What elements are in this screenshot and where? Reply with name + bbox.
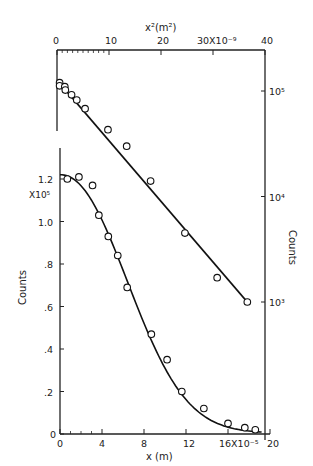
bottom-x-tick-label: 0: [57, 438, 63, 449]
top-x-tick-label: 30X10⁻⁹: [197, 35, 237, 46]
top-x-tick-label: 20: [157, 35, 169, 46]
data-point: [73, 97, 80, 104]
data-point: [225, 420, 232, 427]
bottom-x-tick-label: 16X10⁻⁵: [219, 438, 259, 449]
lower-fit-curve: [60, 175, 262, 432]
data-point: [114, 252, 121, 259]
data-point: [164, 356, 171, 363]
data-point: [105, 233, 112, 240]
left-y-tick-label: 1.0: [38, 217, 53, 228]
left-y-tick-label: .6: [44, 302, 53, 313]
data-point: [179, 388, 186, 395]
top-x-label: x²(m²): [145, 22, 177, 33]
data-point: [148, 331, 155, 338]
left-y-label: Counts: [17, 270, 28, 305]
data-point: [182, 230, 189, 237]
data-point: [62, 87, 69, 94]
bottom-x-tick-label: 8: [141, 438, 147, 449]
data-point: [123, 143, 130, 150]
data-point: [68, 92, 75, 99]
data-point: [242, 424, 249, 431]
bottom-x-ticks: 0481216X10⁻⁵20: [57, 429, 279, 449]
left-y-tick-label: 1.2: [38, 174, 53, 185]
left-y-tick-label: .4: [44, 344, 53, 355]
left-y-tick-label: .2: [44, 387, 53, 398]
lower-chart: 0481216X10⁻⁵20 0.2.4.6.81.01.2 X10⁵ Coun…: [17, 148, 279, 462]
upper-chart: 0102030X10⁻⁹40 10⁵10⁴10³ x²(m²) Counts: [53, 22, 298, 440]
right-y-tick-label: 10⁵: [269, 86, 285, 97]
right-y-label: Counts: [287, 230, 298, 265]
data-point: [82, 105, 89, 112]
data-point: [147, 178, 154, 185]
data-point: [105, 126, 112, 133]
right-y-tick-label: 10⁴: [269, 192, 285, 203]
data-point: [96, 212, 103, 219]
top-x-tick-label: 0: [53, 35, 59, 46]
data-point: [89, 182, 96, 189]
top-x-tick-label: 40: [261, 35, 273, 46]
lower-data-points: [64, 174, 259, 433]
right-y-tick-label: 10³: [269, 297, 285, 308]
left-y-tick-label: 0: [50, 429, 56, 440]
data-point: [252, 426, 259, 433]
figure: 0102030X10⁻⁹40 10⁵10⁴10³ x²(m²) Counts 0…: [0, 0, 313, 466]
data-point: [214, 274, 221, 281]
top-x-tick-label: 10: [105, 35, 117, 46]
data-point: [76, 174, 83, 181]
left-y-tick-label: .8: [44, 259, 53, 270]
bottom-x-tick-label: 12: [183, 438, 195, 449]
bottom-x-tick-label: 20: [267, 438, 279, 449]
data-point: [201, 405, 208, 412]
data-point: [124, 284, 131, 291]
data-point: [64, 176, 71, 183]
bottom-x-tick-label: 4: [99, 438, 105, 449]
y-multiplier-label: X10⁵: [29, 190, 51, 200]
top-x-ticks: 0102030X10⁻⁹40: [53, 35, 273, 55]
data-point: [244, 299, 251, 306]
bottom-x-label: x (m): [146, 451, 173, 462]
